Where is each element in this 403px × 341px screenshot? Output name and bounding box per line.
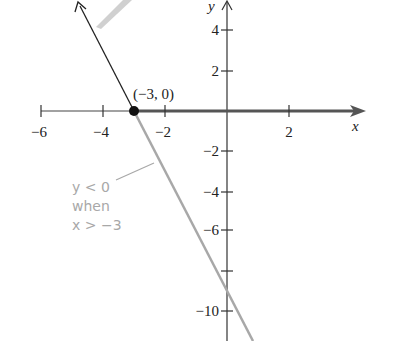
annotation-line-2: when	[72, 198, 110, 214]
x-tick-label: −6	[31, 124, 47, 140]
line-graph: (−3, 0) x y −6 −4 −2 2 4 2 −2 −4 −6 −10 …	[0, 0, 403, 341]
y-tick-label: 2	[212, 63, 220, 79]
y-axis-label: y	[206, 0, 215, 14]
callout-wedge	[96, 0, 132, 29]
y-tick-label: −2	[203, 143, 219, 159]
y-tick-label: −10	[196, 303, 219, 319]
x-tick-label: −2	[155, 124, 171, 140]
x-tick-label: 2	[285, 124, 293, 140]
x-axis-label: x	[351, 118, 359, 134]
y-tick-label: −4	[203, 184, 219, 200]
annotation-line-3: x > −3	[72, 217, 122, 233]
annotation-line-1: y < 0	[72, 179, 110, 195]
y-tick-label: 4	[212, 22, 220, 38]
line-negative-part	[134, 111, 253, 341]
x-tick-label: −4	[93, 124, 109, 140]
point-label: (−3, 0)	[133, 86, 174, 103]
annotation-leader	[116, 163, 154, 180]
point-marker	[129, 106, 139, 116]
y-tick-label: −6	[203, 222, 219, 238]
